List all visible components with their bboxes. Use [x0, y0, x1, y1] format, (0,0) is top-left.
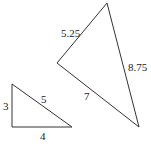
- small-side-left-label: 3: [3, 100, 9, 112]
- large-triangle: [57, 3, 139, 127]
- small-hypotenuse-label: 5: [41, 93, 47, 105]
- large-lower-label: 7: [84, 90, 90, 102]
- diagram-canvas: 3 5 4 5.25 7 8.75: [0, 0, 151, 146]
- small-base-label: 4: [40, 130, 46, 142]
- small-triangle: [12, 84, 72, 127]
- large-upper-left-label: 5.25: [61, 27, 81, 39]
- large-right-label: 8.75: [128, 61, 148, 73]
